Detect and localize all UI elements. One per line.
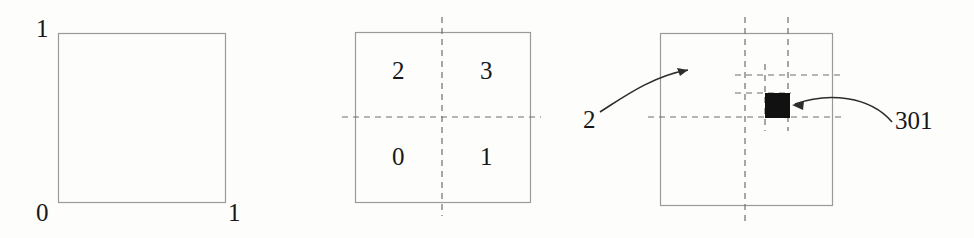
code-callout-arrow-line [795, 98, 892, 122]
unit-square-outline [59, 34, 226, 203]
unit-square-label-bottom-right: 1 [228, 200, 241, 225]
quadrant-label-top-left: 2 [392, 58, 405, 83]
code-callout-label: 301 [895, 108, 933, 133]
level-callout-label: 2 [583, 107, 596, 132]
figure-canvas: 1 0 1 2 3 0 1 [0, 0, 974, 238]
quadrant-square-graphic [330, 0, 560, 238]
quadrant-label-top-right: 3 [480, 58, 493, 83]
unit-square-panel: 1 0 1 [0, 0, 330, 238]
level-callout-arrowhead [677, 68, 688, 76]
unit-square-label-top-left: 1 [36, 16, 49, 41]
unit-square-label-bottom-left: 0 [36, 200, 49, 225]
quadrant-label-bottom-right: 1 [480, 144, 493, 169]
refined-square-outline [661, 34, 833, 206]
quadrant-square-panel: 2 3 0 1 [330, 0, 560, 238]
filled-cell [765, 93, 790, 118]
quadrant-label-bottom-left: 0 [392, 144, 405, 169]
level-callout-arrow-line [600, 70, 688, 112]
unit-square-graphic [0, 0, 330, 238]
refined-square-panel: 2 301 [560, 0, 974, 238]
